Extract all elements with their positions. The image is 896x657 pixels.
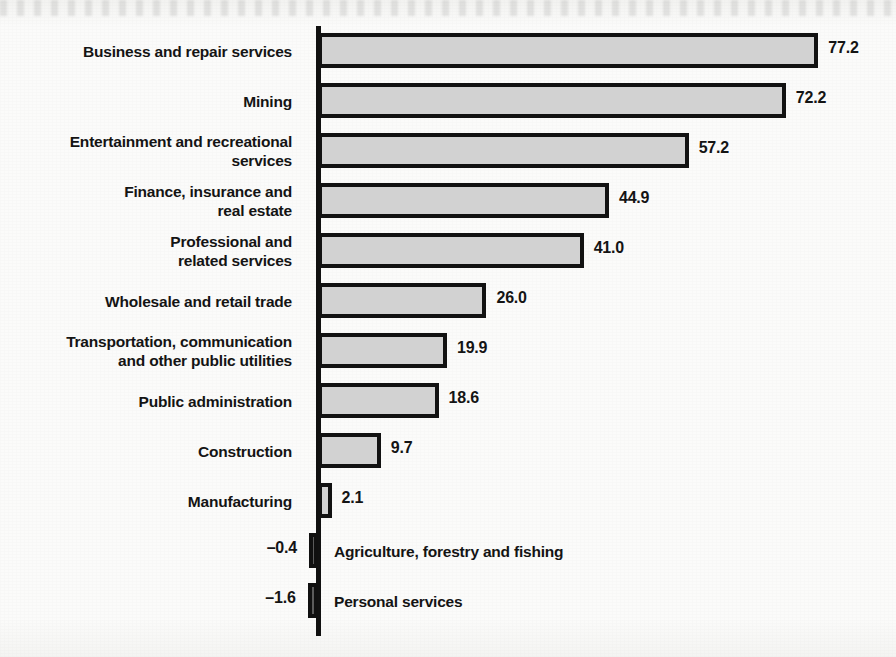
category-label-line: Wholesale and retail trade [0,292,292,311]
category-label-line: Construction [0,442,292,461]
category-label: Finance, insurance andreal estate [0,182,292,220]
bar-value-label: 57.2 [699,139,729,157]
bar-positive [318,233,584,268]
category-label: Personal services [334,592,794,611]
bar-row: Business and repair services77.2 [0,26,896,76]
category-label-line: and other public utilities [0,351,292,370]
category-label: Construction [0,442,292,461]
bar-row: Finance, insurance andreal estate44.9 [0,176,896,226]
bar-row: Transportation, communicationand other p… [0,326,896,376]
category-label-line: Finance, insurance and [0,182,292,201]
category-label-line: Agriculture, forestry and fishing [334,542,794,561]
bar-row: Construction9.7 [0,426,896,476]
category-label: Business and repair services [0,42,292,61]
bar-positive [318,183,609,218]
bar-row: Mining72.2 [0,76,896,126]
bar-row: Personal services–1.6 [0,576,896,626]
category-label-line: Mining [0,92,292,111]
bar-value-label: 18.6 [449,389,479,407]
bar-value-label: 72.2 [796,89,826,107]
category-label: Wholesale and retail trade [0,292,292,311]
category-label-line: Manufacturing [0,492,292,511]
category-label-line: services [0,151,292,170]
bar-value-label: 19.9 [457,339,487,357]
bar-row: Manufacturing2.1 [0,476,896,526]
category-label: Mining [0,92,292,111]
bar-value-label: 77.2 [828,39,858,57]
category-label-line: Entertainment and recreational [0,132,292,151]
category-label: Transportation, communicationand other p… [0,332,292,370]
category-label: Public administration [0,392,292,411]
bar-positive [318,333,447,368]
category-label: Manufacturing [0,492,292,511]
category-label-line: Personal services [334,592,794,611]
bar-value-label: 41.0 [594,239,624,257]
bar-row: Wholesale and retail trade26.0 [0,276,896,326]
bar-row: Entertainment and recreationalservices57… [0,126,896,176]
bar-positive [318,383,439,418]
category-label: Professional andrelated services [0,232,292,270]
bar-negative [309,533,318,568]
category-label-line: Business and repair services [0,42,292,61]
category-label-line: Public administration [0,392,292,411]
bar-row: Public administration18.6 [0,376,896,426]
category-label-line: related services [0,251,292,270]
category-label-line: real estate [0,201,292,220]
bar-positive [318,83,786,118]
bar-value-label: 44.9 [619,189,649,207]
bar-negative [308,583,318,618]
category-label: Entertainment and recreationalservices [0,132,292,170]
bar-positive [318,483,332,518]
bar-value-label: –1.6 [265,589,295,607]
bar-positive [318,283,486,318]
bar-positive [318,33,818,68]
bar-positive [318,433,381,468]
category-label-line: Transportation, communication [0,332,292,351]
category-label: Agriculture, forestry and fishing [334,542,794,561]
bar-value-label: –0.4 [267,539,297,557]
bar-value-label: 26.0 [496,289,526,307]
bar-value-label: 9.7 [391,439,413,457]
bar-value-label: 2.1 [342,489,364,507]
bar-row: Agriculture, forestry and fishing–0.4 [0,526,896,576]
category-label-line: Professional and [0,232,292,251]
horizontal-bar-chart: Business and repair services77.2Mining72… [0,0,896,657]
plot-area: Business and repair services77.2Mining72… [0,0,896,657]
bar-row: Professional andrelated services41.0 [0,226,896,276]
bar-positive [318,133,689,168]
